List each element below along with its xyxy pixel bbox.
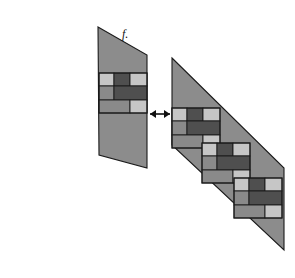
pattern-tile [99, 73, 114, 86]
figure-canvas: f. [0, 0, 295, 278]
pattern-tile [202, 156, 217, 170]
left-panel-group [98, 27, 147, 168]
pattern-tile [249, 191, 282, 205]
pattern-tile [187, 108, 203, 121]
pattern-tile [202, 170, 233, 183]
arrow-head-right [164, 110, 170, 118]
pattern-tile [234, 178, 249, 191]
pattern-tile [172, 121, 187, 135]
right-panel-group [172, 58, 284, 250]
pattern-tile [217, 143, 233, 156]
pattern-block [99, 73, 147, 113]
pattern-block [172, 108, 220, 148]
pattern-tile [99, 86, 114, 100]
left-block-set [99, 73, 147, 113]
pattern-tile [217, 156, 250, 170]
arrow-head-left [150, 110, 156, 118]
pattern-tile [130, 73, 147, 86]
pattern-tile [265, 178, 282, 191]
pattern-tile [114, 86, 147, 100]
pattern-tile [265, 205, 282, 218]
figure-container: f. [0, 0, 295, 278]
pattern-tile [234, 205, 265, 218]
pattern-tile [172, 135, 203, 148]
pattern-tile [203, 108, 220, 121]
pattern-tile [99, 100, 130, 113]
pattern-tile [187, 121, 220, 135]
pattern-tile [202, 143, 217, 156]
pattern-block [202, 143, 250, 183]
pattern-tile [114, 73, 130, 86]
pattern-tile [172, 108, 187, 121]
pattern-tile [249, 178, 265, 191]
equivalence-arrow [150, 110, 170, 118]
pattern-tile [233, 143, 250, 156]
figure-label: f. [122, 27, 128, 41]
pattern-tile [130, 100, 147, 113]
pattern-tile [234, 191, 249, 205]
pattern-block [234, 178, 282, 218]
